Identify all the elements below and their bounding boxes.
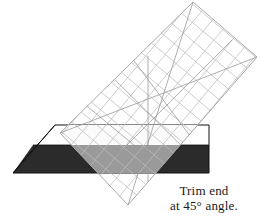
caption-line-1: Trim end (152, 183, 256, 198)
figure-caption: Trim end at 45° angle. (152, 183, 256, 213)
caption-line-2: at 45° angle. (152, 198, 256, 213)
trim-end-45-degree-figure: Trim end at 45° angle. (0, 0, 261, 217)
